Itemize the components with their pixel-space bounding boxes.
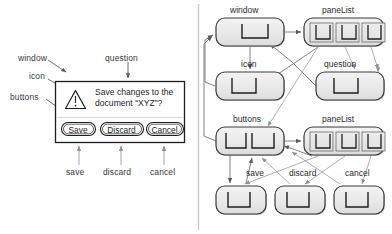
annotation-buttons: buttons	[10, 92, 39, 102]
node-discard-shape	[275, 186, 326, 215]
edge-buttons-to-window	[204, 36, 216, 141]
node-label-window: window	[230, 5, 258, 15]
node-buttons-shape	[216, 127, 285, 156]
dialog-message-line2: document “XYZ”?	[95, 98, 162, 109]
annotation-cancel: cancel	[150, 167, 175, 177]
graph-edges-dark	[204, 32, 318, 183]
edge-discard-to-buttons	[262, 158, 290, 184]
figure-root: window icon buttons question save discar…	[0, 0, 392, 234]
annotation-leaders-bottom	[79, 146, 164, 165]
annotation-save: save	[66, 167, 84, 177]
edge-icon-to-window	[205, 35, 215, 86]
node-label-cancel: cancel	[345, 168, 370, 178]
node-question-shape	[316, 72, 385, 101]
node-save-shape	[216, 186, 267, 215]
discard-button[interactable]: Discard	[100, 125, 143, 135]
graph-edges-light	[245, 47, 378, 184]
dialog-message-line1: Save changes to the	[95, 87, 173, 98]
node-label-question: question	[324, 59, 356, 69]
node-cancel-shape	[334, 186, 385, 215]
cancel-button[interactable]: Cancel	[146, 125, 183, 135]
node-panelist-2-shape	[304, 127, 385, 156]
annotation-icon: icon	[29, 71, 45, 81]
node-label-buttons: buttons	[233, 114, 261, 124]
node-label-save: save	[246, 168, 264, 178]
node-panelist-1-shape	[304, 18, 385, 47]
node-label-discard: discard	[289, 168, 316, 178]
node-label-panelist-2: paneList	[322, 114, 354, 124]
node-label-panelist-1: paneList	[322, 5, 354, 15]
save-button[interactable]: Save	[61, 125, 95, 135]
node-label-icon: icon	[241, 59, 257, 69]
node-window-shape	[216, 18, 285, 47]
leader-window	[48, 60, 66, 72]
annotation-window: window	[18, 53, 47, 63]
edge-panelist1-pane3-to-question	[371, 47, 378, 69]
annotation-question: question	[105, 53, 138, 63]
node-icon-shape	[216, 72, 285, 101]
annotation-discard: discard	[103, 167, 131, 177]
